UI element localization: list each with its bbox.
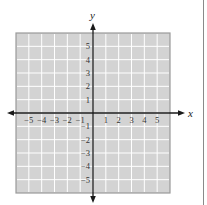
y-tick-label: −4 <box>81 161 91 171</box>
y-tick-label: −2 <box>81 135 90 145</box>
x-tick-label: 3 <box>129 115 133 125</box>
y-axis-label: y <box>89 9 95 21</box>
page-margin-rule <box>203 0 204 205</box>
y-tick-label: −5 <box>81 175 90 185</box>
y-tick-label: 1 <box>86 95 90 105</box>
x-tick-label: −2 <box>63 115 72 125</box>
y-tick-label: −1 <box>81 121 90 131</box>
x-tick-label: 4 <box>142 115 147 125</box>
x-tick-label: 2 <box>117 115 121 125</box>
y-tick-label: 3 <box>86 68 90 78</box>
x-tick-label: 1 <box>104 115 108 125</box>
y-tick-label: 5 <box>86 41 90 51</box>
y-tick-label: −3 <box>81 148 90 158</box>
up-arrow-icon <box>90 23 96 30</box>
x-tick-label: 5 <box>155 115 159 125</box>
left-arrow-icon <box>7 110 14 116</box>
x-axis-label: x <box>187 107 193 119</box>
down-arrow-icon <box>90 196 96 203</box>
x-tick-label: −5 <box>24 115 33 125</box>
x-tick-label: −3 <box>50 115 59 125</box>
x-tick-label: −4 <box>37 115 47 125</box>
y-tick-label: 2 <box>86 81 90 91</box>
right-arrow-icon <box>178 110 185 116</box>
coordinate-plane-figure: xy−5−4−3−2−11234554321−1−2−3−4−5 <box>0 0 207 205</box>
